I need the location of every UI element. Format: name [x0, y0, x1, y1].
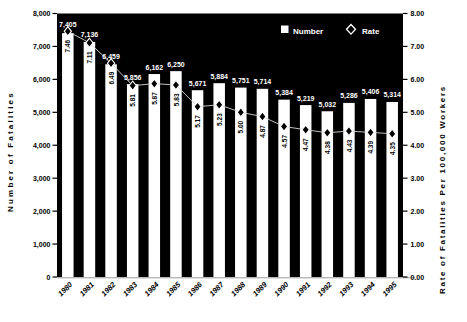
- left-axis-tick-label: 3,000: [33, 175, 51, 183]
- rate-value-label: 7.46: [64, 39, 71, 52]
- number-value-label: 5,751: [232, 77, 250, 85]
- rate-value-label: 4.38: [324, 141, 331, 154]
- left-axis-tick-label: 7,000: [33, 43, 51, 51]
- bar-1981: [84, 42, 96, 277]
- number-value-label: 5,671: [189, 80, 207, 88]
- left-axis-tick-label: 8,000: [33, 10, 51, 18]
- left-axis-tick-label: 5,000: [33, 109, 51, 117]
- number-value-label: 5,286: [340, 92, 358, 100]
- bar-1987: [213, 83, 225, 277]
- right-axis-tick-label: 8.00: [411, 10, 425, 17]
- right-axis-tick-label: 4.00: [411, 142, 425, 149]
- bar-1982: [105, 64, 117, 277]
- rate-value-label: 5.81: [129, 94, 136, 107]
- number-value-label: 6,250: [167, 61, 185, 69]
- right-axis-tick-label: 2.00: [411, 208, 425, 215]
- number-value-label: 5,219: [297, 95, 315, 103]
- right-axis-title: Rate of Fatalities Per 100,000 Workers: [438, 85, 447, 294]
- left-axis-tick-label: 2,000: [33, 208, 51, 216]
- right-axis-tick-label: 0.00: [411, 274, 425, 281]
- right-axis-tick-label: 1.00: [411, 241, 425, 248]
- number-value-label: 6,162: [146, 64, 164, 72]
- x-axis-year-label: 1988: [229, 279, 248, 298]
- number-value-label: 5,406: [362, 88, 380, 96]
- rate-value-label: 4.39: [367, 141, 374, 154]
- x-axis-year-label: 1986: [186, 279, 205, 298]
- number-value-label: 6,459: [102, 53, 120, 61]
- x-axis-year-label: 1995: [380, 279, 399, 298]
- x-axis-year-label: 1981: [78, 280, 96, 298]
- x-axis-year-label: 1985: [164, 279, 183, 298]
- legend-rate-label: Rate: [362, 27, 380, 36]
- rate-value-label: 4.47: [302, 138, 309, 151]
- x-axis-year-label: 1989: [251, 279, 270, 298]
- right-axis-tick-label: 5.00: [411, 109, 425, 116]
- number-value-label: 5,856: [124, 74, 142, 82]
- rate-value-label: 6.49: [108, 71, 115, 84]
- x-axis-year-label: 1984: [143, 279, 162, 298]
- number-value-label: 5,714: [254, 78, 272, 86]
- number-value-label: 5,314: [383, 91, 401, 99]
- number-value-label: 7,136: [81, 31, 99, 39]
- chart-svg: 01,0002,0003,0004,0005,0006,0007,0008,00…: [0, 0, 467, 322]
- rate-value-label: 5.83: [173, 93, 180, 106]
- x-axis-year-label: 1991: [294, 280, 312, 298]
- x-axis-year-label: 1990: [272, 279, 291, 298]
- x-axis-year-label: 1987: [207, 279, 226, 298]
- x-axis-year-label: 1993: [337, 279, 356, 298]
- rate-value-label: 7.11: [86, 51, 93, 64]
- bar-1995: [386, 102, 398, 277]
- bar-1994: [365, 99, 377, 277]
- rate-value-label: 5.87: [151, 92, 158, 105]
- x-axis-year-label: 1992: [316, 279, 335, 298]
- right-axis-tick-label: 7.00: [411, 43, 425, 50]
- bar-1980: [62, 33, 74, 277]
- left-axis-title: Number of Fatalities: [6, 91, 15, 212]
- bar-1983: [127, 84, 139, 277]
- rate-value-label: 4.35: [389, 142, 396, 155]
- right-axis-tick-label: 6.00: [411, 76, 425, 83]
- x-axis-year-label: 1994: [359, 279, 378, 298]
- x-axis-year-label: 1982: [99, 279, 118, 298]
- fatalities-chart-figure: 01,0002,0003,0004,0005,0006,0007,0008,00…: [0, 0, 467, 322]
- x-axis-year-label: 1983: [121, 279, 140, 298]
- rate-value-label: 5.00: [237, 120, 244, 133]
- right-axis-tick-label: 3.00: [411, 175, 425, 182]
- left-axis-tick-label: 0: [47, 274, 51, 281]
- legend-number-swatch: [281, 26, 289, 34]
- rate-value-label: 5.17: [194, 115, 201, 128]
- legend-number-label: Number: [293, 27, 323, 36]
- x-axis-year-label: 1980: [56, 279, 75, 298]
- number-value-label: 5,384: [275, 89, 293, 97]
- rate-value-label: 4.43: [346, 139, 353, 152]
- number-value-label: 7,405: [59, 21, 77, 29]
- rate-value-label: 4.87: [259, 125, 266, 138]
- number-value-label: 5,032: [319, 101, 337, 109]
- rate-value-label: 5.23: [216, 113, 223, 126]
- rate-value-label: 4.57: [281, 135, 288, 148]
- left-axis-tick-label: 1,000: [33, 241, 51, 249]
- left-axis-tick-label: 6,000: [33, 76, 51, 84]
- number-value-label: 5,884: [210, 73, 228, 81]
- left-axis-tick-label: 4,000: [33, 142, 51, 150]
